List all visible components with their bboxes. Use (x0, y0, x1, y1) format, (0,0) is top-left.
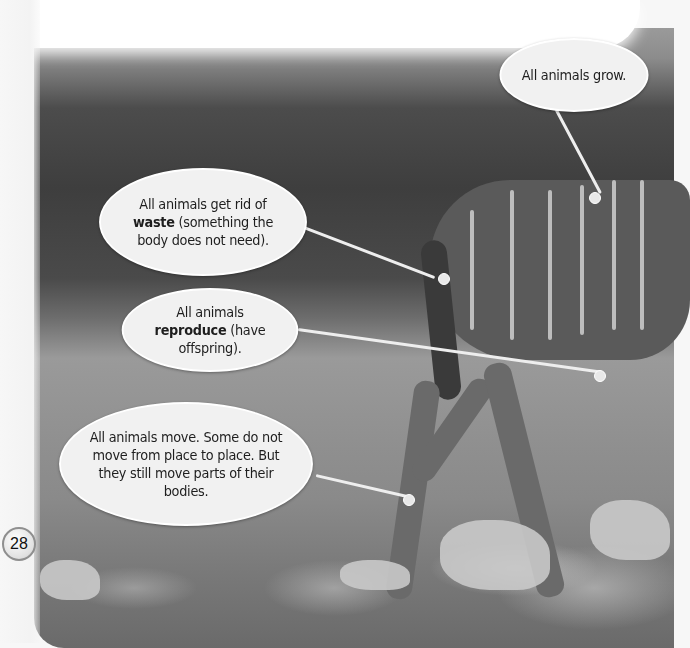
callout-waste: All animals get rid of waste (something … (99, 168, 307, 276)
callout-move: All animals move. Some do not move from … (59, 402, 313, 526)
pointer-dot-grow (589, 192, 601, 204)
rocks (590, 500, 670, 560)
callout-reproduce-text: All animals reproduce (have offspring). (146, 303, 275, 357)
pointer-dot-move (403, 494, 415, 506)
callout-grow: All animals grow. (499, 38, 648, 112)
rocks (340, 560, 410, 590)
pointer-dot-waste (438, 273, 450, 285)
callout-grow-text: All animals grow. (522, 66, 626, 84)
pointer-dot-reproduce (594, 370, 606, 382)
rocks (440, 520, 550, 590)
rocks (40, 560, 100, 600)
callout-move-text: All animals move. Some do not move from … (85, 428, 287, 500)
callout-reproduce: All animals reproduce (have offspring). (122, 288, 299, 372)
callout-waste-text: All animals get rid of waste (something … (129, 195, 276, 249)
kudu-body (430, 180, 690, 360)
page-number: 28 (2, 527, 36, 561)
